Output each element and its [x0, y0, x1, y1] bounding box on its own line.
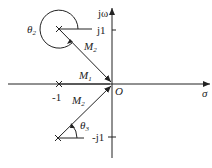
- label-m2-lower: M2: [71, 94, 85, 108]
- label-theta2: θ2: [27, 23, 36, 37]
- label-j1: j1: [96, 24, 106, 36]
- s-plane-diagram: jω j1 -j1 -1 O σ θ2 θ3 M2 M1 M2: [0, 0, 212, 168]
- label-neg-1: -1: [52, 91, 61, 103]
- label-m1: M1: [78, 69, 92, 83]
- label-neg-j1: -j1: [92, 131, 104, 143]
- label-m2-upper: M2: [83, 40, 97, 54]
- label-origin: O: [115, 85, 123, 97]
- label-sigma: σ: [202, 87, 208, 99]
- label-theta3: θ3: [80, 119, 89, 133]
- label-jomega: jω: [97, 7, 108, 19]
